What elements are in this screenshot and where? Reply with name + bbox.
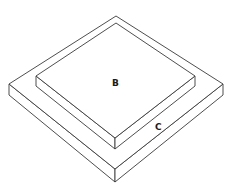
stacked-slabs-diagram: B C	[0, 0, 234, 193]
label-c: C	[155, 122, 162, 132]
label-b: B	[112, 78, 119, 88]
